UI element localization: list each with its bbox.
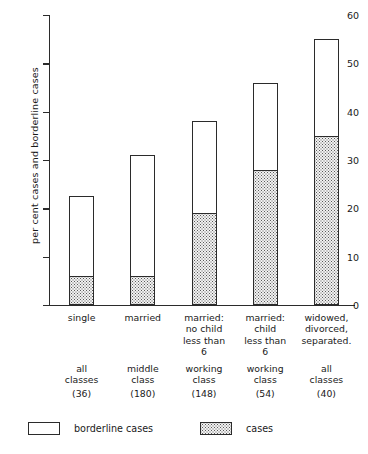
x-axis-class-label: allclasses xyxy=(291,363,361,386)
x-axis-label: married xyxy=(108,312,178,323)
y-tick-mark-0 xyxy=(43,305,49,306)
x-axis-label-line: no child xyxy=(169,323,239,334)
bar-segment-cases xyxy=(192,213,217,305)
legend-swatch-cases-icon xyxy=(200,422,232,435)
x-axis-class-label-line: middle xyxy=(108,363,178,374)
x-axis-label-line: single xyxy=(47,312,117,323)
bar-segment-cases xyxy=(314,136,339,305)
x-axis-label-line: married xyxy=(108,312,178,323)
x-axis-sample-count: (148) xyxy=(169,388,239,399)
x-axis-label: married:childless than6 xyxy=(230,312,300,358)
x-axis-class-label: workingclass xyxy=(169,363,239,386)
x-axis-label: single xyxy=(47,312,117,323)
x-axis-label-line: married: xyxy=(169,312,239,323)
x-axis-label-line: separated. xyxy=(291,335,361,346)
x-axis-label-line: child xyxy=(230,323,300,334)
x-axis-label-line: divorced, xyxy=(291,323,361,334)
x-axis-class-label-line: all xyxy=(47,363,117,374)
bar-segment-cases xyxy=(130,276,155,305)
x-axis-class-label: allclasses xyxy=(47,363,117,386)
x-axis-class-label-line: class xyxy=(169,374,239,385)
x-axis-label-line: less than xyxy=(169,335,239,346)
x-axis-sample-counts: (36)(180)(148)(54)(40) xyxy=(49,388,355,406)
x-axis-class-label: middleclass xyxy=(108,363,178,386)
legend-swatch-borderline-icon xyxy=(28,422,60,435)
x-axis-class-label-line: all xyxy=(291,363,361,374)
legend-item-cases: cases xyxy=(200,418,273,438)
plot-area xyxy=(49,15,355,305)
x-axis-class-label-line: working xyxy=(230,363,300,374)
x-axis-class-label-line: class xyxy=(108,374,178,385)
x-axis-label-line: married: xyxy=(230,312,300,323)
bar-segment-cases xyxy=(69,276,94,305)
x-axis-class-label-line: classes xyxy=(291,374,361,385)
x-axis-sample-count: (54) xyxy=(230,388,300,399)
x-axis-class-label: workingclass xyxy=(230,363,300,386)
legend-item-borderline-cases: borderline cases xyxy=(28,418,153,438)
x-axis-label: married:no childless than6 xyxy=(169,312,239,358)
x-axis-sample-count: (36) xyxy=(47,388,117,399)
x-axis-class-label-line: class xyxy=(230,374,300,385)
x-axis-class-label-line: working xyxy=(169,363,239,374)
legend-label-cases: cases xyxy=(246,423,273,434)
bar-segment-cases xyxy=(253,170,278,305)
x-axis-label-line: less than xyxy=(230,335,300,346)
y-axis-title: per cent cases and borderline cases xyxy=(29,46,40,266)
x-axis-label-line: widowed, xyxy=(291,312,361,323)
chart-legend: borderline cases cases xyxy=(0,418,368,444)
x-axis-sample-count: (40) xyxy=(291,388,361,399)
legend-label-borderline: borderline cases xyxy=(74,423,153,434)
x-axis-label-line: 6 xyxy=(169,346,239,357)
x-axis-label: widowed,divorced,separated. xyxy=(291,312,361,346)
x-axis-label-line: 6 xyxy=(230,346,300,357)
bar-chart: per cent cases and borderline cases 0102… xyxy=(0,0,368,454)
x-axis-class-label-line: classes xyxy=(47,374,117,385)
x-axis-sample-count: (180) xyxy=(108,388,178,399)
